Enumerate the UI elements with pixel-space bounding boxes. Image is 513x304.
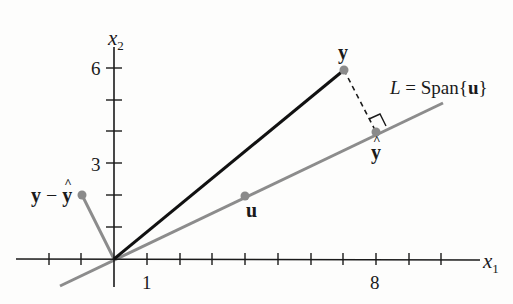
x1-axis-label: x1 [483, 251, 499, 272]
vector-y [114, 70, 344, 259]
projection-dashed-line [344, 70, 376, 132]
label-y-hat: y [371, 142, 381, 162]
orthogonal-projection-diagram: x2 x1 6 3 1 8 y y u y − y L = Span{u} [0, 0, 513, 304]
x-tick-label-8: 8 [370, 273, 380, 292]
right-angle-marker [369, 114, 386, 126]
label-residual: y − y [31, 185, 72, 205]
point-y [340, 66, 349, 75]
label-u: u [246, 200, 257, 220]
point-residual [78, 191, 87, 200]
label-y: y [338, 42, 348, 62]
y-tick-label-3: 3 [91, 155, 101, 174]
y-tick-label-6: 6 [91, 59, 101, 78]
span-line-label: L = Span{u} [390, 78, 488, 97]
x1-axis [16, 259, 480, 260]
diagram-canvas [0, 0, 513, 304]
x2-axis-label: x2 [108, 28, 124, 49]
x-tick-label-1: 1 [142, 273, 152, 292]
